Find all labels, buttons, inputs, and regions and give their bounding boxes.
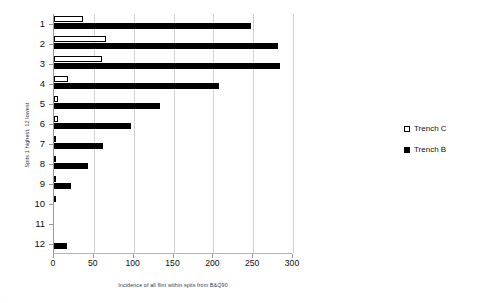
x-axis-tick-label: 200 — [205, 258, 219, 268]
bar-row — [54, 34, 292, 54]
y-axis-tick — [49, 124, 53, 125]
plot-area — [53, 14, 292, 254]
y-axis-tick-label: 6 — [40, 114, 45, 134]
bar-trench-c — [54, 56, 102, 62]
legend-label: Trench C — [414, 124, 447, 133]
bar-row — [54, 54, 292, 74]
bar-trench-c — [54, 76, 68, 82]
y-axis-tick — [49, 64, 53, 65]
bar-trench-c — [54, 176, 56, 182]
y-axis-tick — [49, 204, 53, 205]
y-axis-tick — [49, 44, 53, 45]
y-axis-tick-label: 8 — [40, 154, 45, 174]
bar-trench-b — [54, 23, 251, 29]
legend-entry: Trench B — [404, 145, 476, 154]
y-axis-tick — [49, 224, 53, 225]
y-axis-tick-label: 7 — [40, 134, 45, 154]
x-axis-tick-label: 100 — [125, 258, 139, 268]
y-axis-tick-label: 12 — [34, 234, 45, 254]
bar-trench-c — [54, 16, 83, 22]
bar-trench-c — [54, 116, 58, 122]
bar-trench-b — [54, 43, 278, 49]
bar-trench-c — [54, 156, 56, 162]
gridline-300 — [293, 14, 294, 253]
y-axis-tick-label: 10 — [34, 194, 45, 214]
legend-label: Trench B — [414, 145, 446, 154]
bar-trench-b — [54, 163, 88, 169]
bar-trench-b — [54, 63, 280, 69]
y-axis-tick — [49, 164, 53, 165]
open-square-icon — [404, 126, 410, 132]
bar-row — [54, 94, 292, 114]
y-axis-tick — [49, 244, 53, 245]
bar-row — [54, 194, 292, 214]
bar-trench-b — [54, 183, 71, 189]
y-axis-tick-label: 11 — [35, 214, 45, 234]
bar-trench-b — [54, 83, 219, 89]
corner-artifact: . — [6, 294, 7, 300]
x-axis-tick-label: 0 — [51, 258, 56, 268]
bar-trench-b — [54, 143, 103, 149]
bar-chart: Spits 1 highest, 12 lowest 1234567891011… — [0, 0, 479, 303]
bar-row — [54, 74, 292, 94]
bar-trench-b — [54, 103, 160, 109]
x-axis-tick-label: 300 — [285, 258, 299, 268]
bar-trench-c — [54, 36, 106, 42]
bar-row — [54, 114, 292, 134]
bar-row — [54, 14, 292, 34]
y-axis-tick-label: 1 — [40, 14, 45, 34]
y-axis-tick — [49, 84, 53, 85]
bar-row — [54, 134, 292, 154]
y-axis-tick-label: 3 — [40, 54, 45, 74]
bar-trench-c — [54, 196, 56, 202]
bar-row — [54, 214, 292, 234]
bar-trench-c — [54, 136, 56, 142]
bar-trench-c — [54, 96, 58, 102]
bar-row — [54, 154, 292, 174]
bar-row — [54, 174, 292, 194]
chart-legend: Trench CTrench B — [404, 124, 476, 166]
y-axis-tick-label: 2 — [40, 34, 45, 54]
x-axis-tick-label: 50 — [88, 258, 98, 268]
x-axis-tick-label: 150 — [165, 258, 179, 268]
y-axis-tick — [49, 184, 53, 185]
x-axis-tick-label: 250 — [245, 258, 259, 268]
y-axis-tick-label: 4 — [40, 74, 45, 94]
y-axis-tick — [49, 104, 53, 105]
x-axis-tick-labels: 050100150200250300 — [53, 258, 293, 272]
y-axis-tick — [49, 144, 53, 145]
y-axis-tick-label: 5 — [40, 94, 45, 114]
y-axis-tick-label: 9 — [40, 174, 45, 194]
bar-row — [54, 234, 292, 254]
x-axis-title: Incidence of all flint within spits from… — [53, 282, 293, 288]
y-axis-tick-labels: 123456789101112 — [28, 14, 49, 254]
legend-entry: Trench C — [404, 124, 476, 133]
bar-trench-b — [54, 123, 131, 129]
y-axis-tick — [49, 24, 53, 25]
bar-rows — [54, 14, 292, 253]
filled-square-icon — [404, 147, 410, 153]
bar-trench-b — [54, 243, 67, 249]
